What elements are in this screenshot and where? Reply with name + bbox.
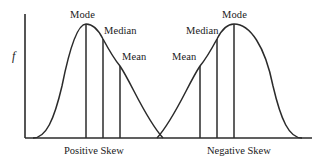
negative-skew-footer-label: Negative Skew <box>207 146 271 157</box>
negative-skew-curve-group <box>157 24 302 138</box>
positive-skew-median-label: Median <box>104 26 137 37</box>
axes-group <box>25 14 312 138</box>
positive-skew-curve-group <box>33 24 163 138</box>
y-axis-label: f <box>12 50 15 62</box>
distribution-curves-svg <box>0 0 326 167</box>
negative-skew-mode-label: Mode <box>222 10 247 21</box>
negative-skew-curve <box>157 24 302 138</box>
skewness-diagram-figure: f Mode Median Mean Mean Median Mode Posi… <box>0 0 326 167</box>
positive-skew-footer-label: Positive Skew <box>64 146 124 157</box>
negative-skew-median-label: Median <box>186 26 219 37</box>
positive-skew-mode-label: Mode <box>70 10 95 21</box>
positive-skew-mean-label: Mean <box>122 52 146 63</box>
positive-skew-curve <box>33 24 163 138</box>
negative-skew-mean-label: Mean <box>172 52 196 63</box>
